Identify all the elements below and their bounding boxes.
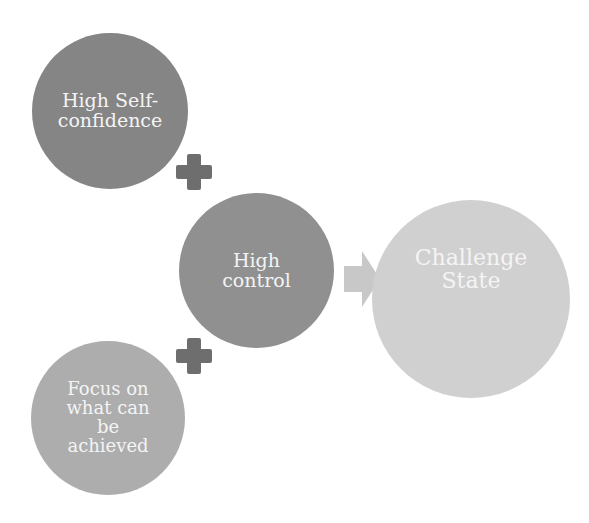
node-label-line: High Self-: [58, 91, 163, 111]
node-label-line: control: [222, 271, 291, 291]
plus-icon: [176, 154, 212, 190]
node-label-line: confidence: [58, 111, 163, 131]
node-high-control: High control: [179, 193, 334, 348]
node-label-line: Challenge: [415, 246, 527, 269]
node-high-self-confidence: High Self- confidence: [32, 33, 188, 189]
plus-icon: [176, 338, 212, 374]
node-label-line: High: [222, 251, 291, 271]
node-label-line: State: [415, 269, 527, 292]
node-label-line: achieved: [66, 437, 149, 456]
node-focus-on-achievable: Focus on what can be achieved: [31, 341, 185, 495]
node-challenge-state: Challenge State: [372, 200, 570, 398]
